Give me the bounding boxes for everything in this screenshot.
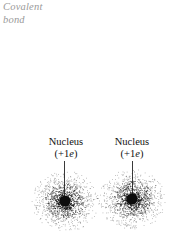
covalent-bond-figure: Covalent bond Nucleus (+1e) Nucleus (+1e… xyxy=(0,0,175,231)
nucleus-label-right-text: Nucleus xyxy=(115,136,149,147)
nucleus-charge-right: (+1e) xyxy=(82,148,175,160)
nucleus-charge-right-suffix: ) xyxy=(140,148,144,159)
nucleus-charge-right-prefix: (+1 xyxy=(121,148,136,159)
nucleus-label-right: Nucleus (+1e) xyxy=(82,136,175,160)
atom-right: Nucleus (+1e) xyxy=(66,0,175,231)
electron-cloud-right-stipple xyxy=(97,168,175,230)
nucleus-core-right xyxy=(126,193,137,204)
electron-cloud-right xyxy=(97,168,175,230)
